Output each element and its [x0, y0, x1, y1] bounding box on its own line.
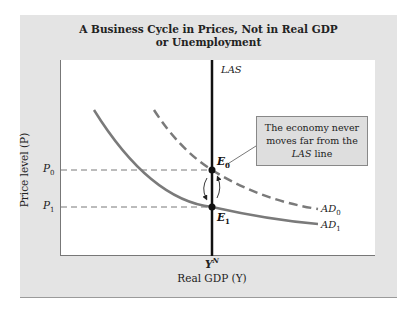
- y-tick-p1: P1: [43, 199, 55, 214]
- e0-label: E0: [217, 155, 230, 170]
- ad0-label: AD0: [321, 203, 341, 217]
- up-arrow-icon: [217, 178, 220, 198]
- x-axis-label: Real GDP (Y): [160, 272, 264, 284]
- callout-line-2: moves far from the: [257, 134, 367, 147]
- y-tick-p0: P0: [43, 162, 55, 177]
- e0-point: [209, 167, 216, 174]
- x-tick-yn: YN: [196, 256, 228, 270]
- las-label: LAS: [221, 64, 242, 75]
- ad1-label: AD1: [321, 219, 341, 233]
- callout-box: The economy never moves far from the LAS…: [256, 116, 368, 166]
- callout-line-3: LAS line: [257, 147, 367, 160]
- down-arrow-icon: [204, 178, 207, 198]
- y-axis-label: Price level (P): [18, 110, 32, 230]
- callout-leader-line: [226, 146, 256, 165]
- e1-label: E1: [217, 211, 230, 226]
- e1-point: [209, 204, 216, 211]
- callout-line-1: The economy never: [257, 121, 367, 134]
